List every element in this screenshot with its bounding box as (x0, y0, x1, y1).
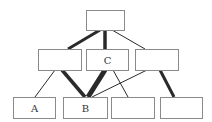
node-mid_center: C (87, 50, 129, 71)
edge-mid_right-to-bot_4 (160, 70, 174, 97)
node-box (112, 98, 155, 119)
node-label: B (82, 103, 89, 114)
node-box (87, 11, 125, 31)
edge-mid_center-to-bot_2 (88, 70, 105, 97)
edge-mid_left-to-bot_2 (62, 70, 85, 97)
hierarchy-diagram: CAB (0, 0, 212, 122)
node-bot_1: A (14, 98, 56, 119)
node-layer: CAB (14, 11, 203, 119)
node-top (87, 11, 125, 31)
node-bot_2: B (64, 98, 108, 119)
node-label: A (30, 103, 39, 114)
edge-top-to-mid_left (68, 30, 100, 49)
edge-mid_left-to-bot_1 (35, 70, 55, 97)
node-label: C (104, 55, 112, 66)
node-mid_left (39, 50, 82, 71)
edge-top-to-mid_right (112, 30, 145, 49)
node-box (161, 98, 203, 119)
node-mid_right (136, 50, 179, 71)
node-box (136, 50, 179, 71)
node-bot_3 (112, 98, 155, 119)
node-bot_4 (161, 98, 203, 119)
node-box (39, 50, 82, 71)
